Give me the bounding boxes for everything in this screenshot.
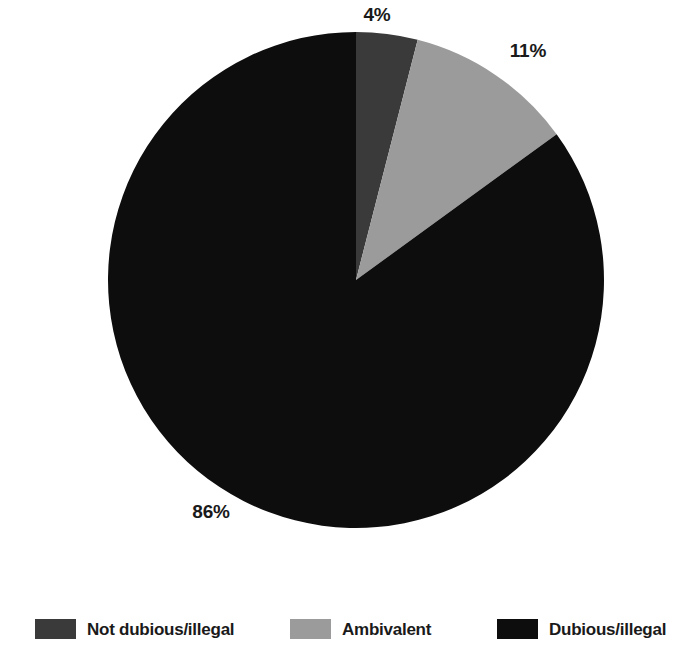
chart-legend: Not dubious/illegal Ambivalent Dubious/i… (0, 612, 696, 659)
pie-label-ambivalent: 11% (510, 41, 546, 60)
legend-item-dubious[interactable]: Dubious/illegal (497, 617, 666, 641)
legend-swatch-icon-ambivalent (290, 619, 331, 639)
pie-svg (0, 0, 696, 570)
legend-label-ambivalent: Ambivalent (342, 621, 431, 638)
legend-label-not-dubious: Not dubious/illegal (87, 621, 234, 638)
pie-label-dubious: 86% (192, 502, 229, 521)
legend-item-not-dubious[interactable]: Not dubious/illegal (35, 617, 234, 641)
legend-swatch-icon-not-dubious (35, 619, 76, 639)
legend-item-ambivalent[interactable]: Ambivalent (290, 617, 431, 641)
pie-plot-area: 4% 11% 86% (0, 0, 696, 570)
pie-chart: 4% 11% 86% Not dubious/illegal Ambivalen… (0, 0, 696, 659)
legend-label-dubious: Dubious/illegal (549, 621, 666, 638)
pie-slices (108, 32, 604, 528)
legend-swatch-icon-dubious (497, 619, 538, 639)
pie-label-not-dubious: 4% (363, 5, 390, 24)
